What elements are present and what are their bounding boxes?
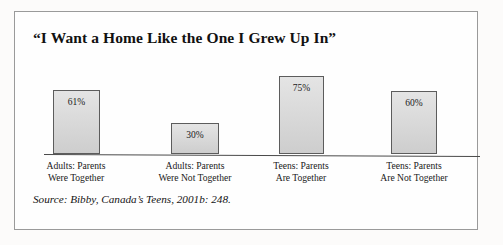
- bar-value-label-2: 30%: [171, 130, 219, 140]
- x-label-4: Teens: ParentsAre Not Together: [344, 160, 484, 183]
- x-axis-baseline: [44, 154, 480, 157]
- x-label-line1: Teens: Parents: [344, 160, 484, 172]
- figure-page: “I Want a Home Like the One I Grew Up In…: [0, 0, 503, 245]
- source-note: Source: Bibby, Canada’s Teens, 2001b: 24…: [33, 193, 231, 205]
- bar-value-label-1: 61%: [53, 97, 100, 107]
- x-label-line2: Are Not Together: [344, 172, 484, 184]
- bar-value-label-4: 60%: [391, 98, 437, 108]
- bar-value-label-3: 75%: [279, 83, 324, 93]
